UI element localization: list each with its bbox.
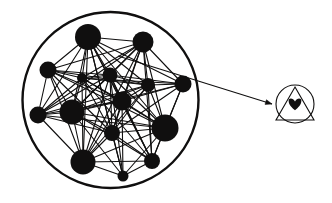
node-10: [30, 107, 47, 124]
node-15: [118, 171, 129, 182]
figure-canvas: [0, 0, 332, 203]
node-1: [75, 24, 101, 50]
node-4: [77, 73, 87, 83]
node-8: [113, 92, 132, 111]
node-2: [133, 32, 154, 53]
node-6: [141, 78, 155, 92]
node-13: [71, 150, 96, 175]
node-14: [144, 153, 160, 169]
network-figure-svg: [0, 0, 332, 203]
node-5: [103, 68, 118, 83]
node-11: [152, 115, 179, 142]
node-12: [104, 125, 120, 141]
node-3: [40, 62, 57, 79]
node-9: [60, 100, 85, 125]
